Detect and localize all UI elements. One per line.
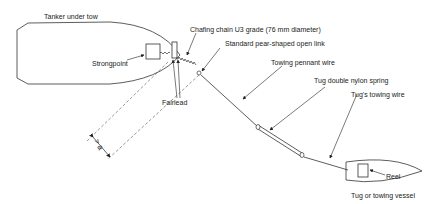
chafing-chain xyxy=(176,57,196,65)
reel-box xyxy=(358,164,368,177)
fairlead-box xyxy=(172,42,177,58)
towing-arrangement-diagram: Tanker under tow Strongpoint Fairlead Ch… xyxy=(0,0,443,204)
reel-label: Reel xyxy=(386,173,400,180)
inner-chain xyxy=(160,52,170,54)
tanker-label: Tanker under tow xyxy=(44,13,98,20)
tug-label: Tug or towing vessel xyxy=(351,192,415,199)
strongpoint-box xyxy=(146,44,160,59)
towing-wire-label: Tug's towing wire xyxy=(351,91,405,98)
nylon-spring-label: Tug double nylon spring xyxy=(314,77,388,84)
fairlead-label: Fairlead xyxy=(162,99,187,106)
strongpoint-label: Strongpoint xyxy=(92,60,128,67)
pennant-wire-label: Towing pennant wire xyxy=(271,59,335,66)
pear-link xyxy=(197,71,201,75)
chafing-chain-label: Chafing chain U3 grade (76 mm diameter) xyxy=(190,26,321,33)
pear-link-label: Standard pear-shaped open link xyxy=(225,40,325,47)
tug-hull xyxy=(346,160,422,182)
